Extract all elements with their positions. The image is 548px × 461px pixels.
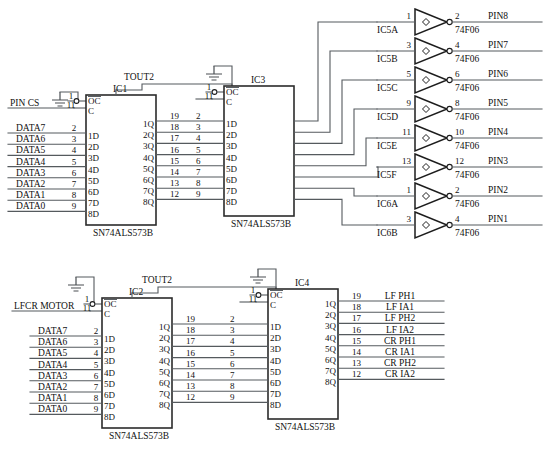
- ref-label-ic5a: IC5A: [377, 25, 398, 35]
- net-label-cr-ph2: CR PH2: [384, 358, 416, 368]
- pin-number-ic2-out-7: 12: [186, 392, 195, 402]
- net-label-pin4: PIN4: [488, 127, 508, 137]
- signal-label-ic2-data4: DATA4: [38, 360, 68, 370]
- inverter-body-ic6a: [415, 183, 447, 209]
- part-label-ic5f: 74F06: [455, 170, 480, 180]
- svg-text:OC: OC: [270, 290, 283, 300]
- pin-number-ic5e-in: 11: [402, 127, 411, 137]
- output-pin-name-ic4-0: 1Q: [325, 299, 337, 309]
- input-pin-name-ic1-7: 8D: [88, 209, 100, 219]
- pin-number-ic4-in-1: 3: [230, 325, 235, 335]
- pin-number-ic1-in-4: 6: [72, 168, 77, 178]
- output-pin-name-ic1-4: 5Q: [143, 164, 155, 174]
- signal-label-ic2-data6: DATA6: [38, 337, 68, 347]
- part-label-ic6a: 74F06: [455, 199, 480, 209]
- pin-number-ic2-in-3: 5: [94, 360, 99, 370]
- signal-label-ic1-data5: DATA5: [16, 145, 46, 155]
- signal-label-ic2-data1: DATA1: [38, 393, 68, 403]
- pin-number-ic1-in-6: 8: [72, 190, 77, 200]
- output-pin-name-ic2-1: 2Q: [159, 333, 171, 343]
- pin-number-ic3-in-5: 7: [196, 167, 201, 177]
- pin-number-ic2-out-4: 15: [186, 359, 196, 369]
- pin-number-ic4-in-4: 6: [230, 359, 235, 369]
- input-pin-name-ic4-7: 8D: [270, 400, 282, 410]
- signal-label-ic1-data4: DATA4: [16, 157, 46, 167]
- pin-number-ic1-out-5: 14: [170, 167, 180, 177]
- pin-number-ic6a-in: 1: [407, 185, 412, 195]
- wire-ic3-q3-to-ic5c: [294, 80, 377, 143]
- pin-number-ic2-out-5: 14: [186, 370, 196, 380]
- pin-number-ic2-in-6: 8: [94, 393, 99, 403]
- output-pin-name-ic1-2: 3Q: [143, 141, 155, 151]
- schematic-canvas: DATA721DDATA632DDATA543DDATA454DDATA365D…: [0, 0, 548, 461]
- net-label-pin2: PIN2: [488, 185, 508, 195]
- input-pin-name-ic1-6: 7D: [88, 198, 100, 208]
- pin-number-ic6b-in: 3: [407, 214, 412, 224]
- signal-label-ic1-data0: DATA0: [16, 201, 46, 211]
- ref-label-ic5d: IC5D: [377, 112, 398, 122]
- input-pin-name-ic4-2: 3D: [270, 344, 282, 354]
- net-label-tout2-top: TOUT2: [124, 72, 154, 82]
- pin-number-ic4-out-1: 18: [352, 302, 362, 312]
- input-pin-name-ic1-2: 3D: [88, 153, 100, 163]
- ref-label-ic2: IC2: [129, 287, 144, 297]
- output-pin-name-ic2-4: 5Q: [159, 367, 171, 377]
- inverter-bubble-ic5e: [447, 135, 452, 140]
- pin-number-ic6b-out: 4: [455, 214, 460, 224]
- ref-label-ic5b: IC5B: [377, 54, 398, 64]
- svg-text:C: C: [270, 300, 276, 310]
- output-pin-name-ic2-0: 1Q: [159, 322, 171, 332]
- input-pin-name-ic4-0: 1D: [270, 322, 282, 332]
- wire-ic3-q2-to-ic5b: [294, 51, 377, 132]
- pin-number-ic1-out-0: 19: [170, 111, 180, 121]
- input-pin-name-ic2-3: 4D: [104, 368, 116, 378]
- input-pin-name-ic4-6: 7D: [270, 389, 282, 399]
- pin-number-ic1-out-2: 17: [170, 133, 180, 143]
- output-pin-name-ic4-1: 2Q: [325, 310, 337, 320]
- net-label-lfcr-motor: LFCR MOTOR: [14, 301, 75, 311]
- signal-label-ic1-data3: DATA3: [16, 168, 46, 178]
- input-pin-name-ic3-7: 8D: [226, 197, 238, 207]
- output-pin-name-ic2-5: 6Q: [159, 378, 171, 388]
- inverter-bubble-ic5a: [447, 19, 452, 24]
- inverter-body-ic5f: [415, 154, 447, 180]
- svg-text:OC: OC: [226, 87, 239, 97]
- svg-text:11: 11: [205, 91, 214, 101]
- output-pin-name-ic1-6: 7Q: [143, 186, 155, 196]
- pin-number-ic4-in-0: 2: [230, 314, 235, 324]
- net-label-cr-ph1: CR PH1: [384, 336, 416, 346]
- pin-number-ic1-out-4: 15: [170, 156, 180, 166]
- svg-text:11: 11: [249, 294, 258, 304]
- wire-ic3-q1-to-ic5a: [294, 22, 377, 121]
- inverter-body-ic5c: [415, 67, 447, 93]
- input-pin-name-ic1-4: 5D: [88, 176, 100, 186]
- net-label-lf-ph2: LF PH2: [385, 313, 416, 323]
- input-pin-name-ic1-5: 6D: [88, 187, 100, 197]
- signal-label-ic2-data2: DATA2: [38, 382, 68, 392]
- wire-ic3-q8-to-ic6b: [294, 199, 377, 225]
- pin-number-ic4-out-0: 19: [352, 291, 362, 301]
- pin-number-ic4-in-2: 4: [230, 336, 235, 346]
- pin-number-ic1-in-0: 2: [72, 123, 77, 133]
- svg-text:11: 11: [83, 303, 92, 313]
- pin-number-ic2-out-0: 19: [186, 314, 196, 324]
- input-pin-name-ic2-1: 2D: [104, 345, 116, 355]
- inverter-body-ic5e: [415, 125, 447, 151]
- input-pin-name-ic3-5: 6D: [226, 175, 238, 185]
- pin-number-ic2-in-0: 2: [94, 326, 99, 336]
- pin-number-ic1-in-1: 3: [72, 134, 77, 144]
- pin-number-ic1-out-3: 16: [170, 145, 180, 155]
- signal-label-ic1-data7: DATA7: [16, 123, 46, 133]
- pin-number-ic4-out-4: 15: [352, 336, 362, 346]
- pin-number-ic5e-out: 10: [455, 127, 465, 137]
- output-pin-name-ic1-1: 2Q: [143, 130, 155, 140]
- pin-number-ic4-out-7: 12: [352, 369, 361, 379]
- net-label-cr-ia1: CR IA1: [385, 347, 415, 357]
- pin-number-ic3-in-3: 5: [196, 145, 201, 155]
- net-label-pin6: PIN6: [488, 69, 508, 79]
- output-pin-name-ic4-4: 5Q: [325, 344, 337, 354]
- ref-label-ic6a: IC6A: [377, 199, 398, 209]
- pin-number-ic2-out-3: 16: [186, 348, 196, 358]
- pin-number-ic2-in-4: 6: [94, 371, 99, 381]
- pin-number-ic5c-in: 5: [407, 69, 412, 79]
